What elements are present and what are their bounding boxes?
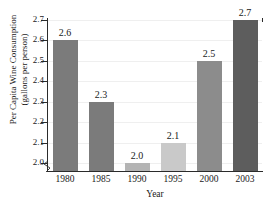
bar (197, 61, 222, 171)
wine-consumption-bar-chart: Per Capita Wine Consumption (gallons per… (0, 0, 269, 206)
x-axis-line (47, 171, 263, 172)
bar (161, 143, 186, 171)
bar-value-label: 2.6 (45, 28, 85, 38)
bar (125, 163, 150, 171)
x-axis-tick-label: 1980 (45, 174, 85, 185)
bar-value-label: 2.0 (117, 151, 157, 161)
bar (53, 40, 78, 171)
y-axis-tick-label: 2.4 (26, 76, 44, 85)
x-axis-tick-label: 1985 (81, 174, 121, 185)
y-axis-tick-label: 2.7 (26, 15, 44, 24)
x-axis-tick-label: 1990 (117, 174, 157, 185)
y-axis-tick-label: 2.6 (26, 35, 44, 44)
bar-value-label: 2.7 (225, 8, 265, 18)
bar-value-label: 2.3 (81, 90, 121, 100)
y-axis-title-wrapper: Per Capita Wine Consumption (gallons per… (0, 0, 30, 180)
x-axis-tick-label: 1995 (153, 174, 193, 185)
x-axis-title: Year (47, 189, 263, 200)
x-axis-tick-labels-group: 198019851990199520002003 (47, 174, 263, 188)
bar-value-label: 2.1 (153, 131, 193, 141)
bars-group (47, 20, 263, 171)
bar (233, 20, 258, 171)
y-axis-tick-label: 2.1 (26, 138, 44, 147)
x-axis-tick-label: 2003 (225, 174, 265, 185)
y-axis-tick-label: 2.2 (26, 117, 44, 126)
y-axis-tick-label: 2.5 (26, 56, 44, 65)
bar (89, 102, 114, 171)
bar-value-label: 2.5 (189, 49, 229, 59)
x-axis-tick-label: 2000 (189, 174, 229, 185)
y-axis-tick-label: 2.3 (26, 97, 44, 106)
